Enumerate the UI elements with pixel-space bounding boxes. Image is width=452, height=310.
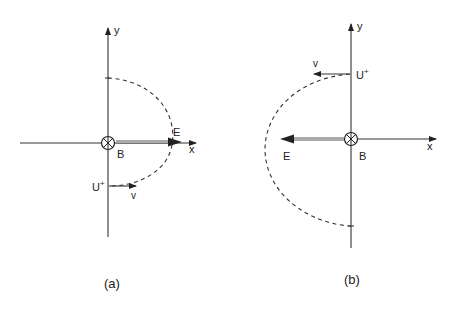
particle-label-a: U+ xyxy=(92,179,105,193)
magnetic-field-into-page-icon-a xyxy=(102,137,115,150)
velocity-label-a: v xyxy=(131,190,136,201)
y-axis-label-a: y xyxy=(114,24,120,36)
trajectory-a xyxy=(108,78,173,186)
magnetic-field-label-a: B xyxy=(117,148,124,160)
magnetic-field-into-page-icon-b xyxy=(345,133,358,146)
trajectory-b xyxy=(265,74,351,226)
panel-caption-b: (b) xyxy=(344,272,360,287)
x-axis-label-b: x xyxy=(427,140,433,152)
y-axis-label-b: y xyxy=(357,20,363,32)
particle-label-b: U+ xyxy=(356,67,369,81)
panel-a: y x E B U+ v (a) xyxy=(20,24,196,291)
panel-caption-a: (a) xyxy=(104,276,120,291)
electric-field-label-b: E xyxy=(283,150,290,162)
magnetic-field-label-b: B xyxy=(359,150,366,162)
electric-field-arrow-b xyxy=(280,135,344,144)
figure-canvas: y x E B U+ v (a) y xyxy=(0,0,452,310)
panel-b: y x E B U+ v (b) xyxy=(265,20,436,287)
velocity-label-b: v xyxy=(313,58,318,69)
x-axis-label-a: x xyxy=(189,143,195,155)
electric-field-label-a: E xyxy=(173,126,180,138)
